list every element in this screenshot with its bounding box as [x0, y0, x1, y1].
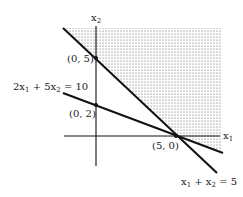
- point-0-2: [94, 103, 98, 107]
- lp-diagram: x2 x1 (0, 5) (0, 2) (5, 0) 2x1 + 5x2 = 1…: [0, 0, 243, 197]
- point-label-0-5: (0, 5): [67, 53, 94, 64]
- point-label-5-0: (5, 0): [152, 140, 179, 151]
- point-label-0-2: (0, 2): [69, 108, 96, 119]
- x2-axis-label: x2: [91, 12, 101, 25]
- point-0-5: [94, 56, 98, 60]
- x1-axis-label: x1: [223, 130, 233, 143]
- line-label-x1-x2-5: x1 + x2 = 5: [181, 176, 237, 189]
- point-5-0: [174, 134, 178, 138]
- line-label-2x1-5x2-10: 2x1 + 5x2 = 10: [13, 81, 88, 94]
